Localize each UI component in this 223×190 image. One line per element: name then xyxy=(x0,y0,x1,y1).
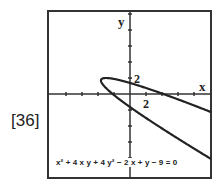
equation-label: x² + 4 x y + 4 y² − 2 x + y − 9 = 0 xyxy=(56,158,177,167)
y-tick-label: 2 xyxy=(134,72,140,86)
x-tick-label: 2 xyxy=(143,97,149,111)
parabola-curve xyxy=(101,78,211,159)
x-axis-label: x xyxy=(199,79,206,94)
y-axis-label: y xyxy=(118,14,125,29)
